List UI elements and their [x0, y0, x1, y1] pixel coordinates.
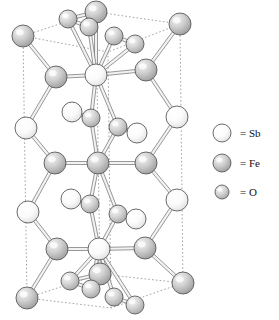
specular-highlight	[129, 300, 135, 305]
atom-c-br	[172, 272, 194, 294]
atom-rl-3	[44, 152, 66, 174]
atom-sphere-fe	[44, 152, 66, 174]
specular-highlight	[93, 267, 101, 273]
atom-rr-5	[134, 237, 156, 259]
bond	[148, 121, 175, 159]
specular-highlight	[85, 284, 91, 289]
atom-rl-2	[15, 117, 37, 139]
atom-sphere-fe	[16, 287, 38, 309]
atom-sphere-o	[82, 280, 100, 298]
specular-highlight	[112, 122, 118, 127]
bond-edge	[26, 42, 51, 74]
bond-edge	[31, 255, 55, 294]
atom-c-tr	[169, 13, 191, 35]
bond-edge	[29, 253, 53, 292]
specular-highlight	[176, 276, 184, 282]
atom-rl-4	[17, 201, 39, 223]
atom-sphere-sb	[62, 102, 82, 122]
specular-highlight	[91, 156, 99, 162]
atom-sphere-sb	[166, 189, 188, 211]
specular-highlight	[108, 292, 114, 297]
legend-swatch-fe	[213, 154, 231, 172]
crystal-structure-figure: = Sb= Fe= O	[0, 0, 279, 320]
atom-sphere-o	[105, 27, 123, 45]
bond-edge	[149, 169, 172, 197]
bond-edge	[151, 74, 175, 111]
specular-highlight	[49, 70, 57, 76]
bond-body	[147, 204, 175, 244]
atom-is-2	[127, 123, 147, 143]
atom-is-1	[62, 102, 82, 122]
atom-sphere-fe	[45, 66, 67, 88]
atom-sphere-fe	[12, 25, 34, 47]
atom-sphere-sb	[15, 117, 37, 139]
unit-cell-vertical-edge-3	[180, 24, 183, 283]
legend-label-sb: = Sb	[240, 127, 261, 139]
unit-cell-vertical-edge-1	[23, 36, 27, 298]
atom-sphere-fe	[172, 272, 194, 294]
atom-c-bl	[16, 287, 38, 309]
legend-label-o: = O	[240, 186, 257, 198]
specular-highlight	[129, 39, 135, 44]
specular-highlight	[16, 29, 24, 35]
atom-o-m4	[109, 205, 127, 223]
bond-body	[148, 121, 175, 159]
atom-ax-1	[85, 64, 107, 86]
atom-sphere-o	[126, 296, 144, 314]
bond-body	[29, 253, 55, 293]
atom-sphere-sb	[213, 124, 231, 142]
atom-sphere-sb	[166, 106, 188, 128]
specular-highlight	[89, 5, 97, 11]
atom-o-m3	[81, 195, 99, 213]
bond-body	[28, 81, 54, 123]
atom-o-t2	[80, 18, 98, 36]
atom-sphere-fe	[87, 152, 109, 174]
bond	[30, 168, 54, 208]
specular-highlight	[108, 31, 114, 36]
specular-highlight	[48, 156, 56, 162]
atom-sphere-o	[105, 288, 123, 306]
bond	[102, 69, 140, 76]
bond-edge	[99, 169, 115, 210]
bond-body	[99, 168, 118, 210]
atom-o-t3	[105, 27, 123, 45]
bond-body	[148, 74, 175, 113]
legend-item-fe: = Fe	[213, 154, 260, 172]
specular-highlight	[216, 158, 222, 163]
atom-sphere-sb	[88, 238, 110, 260]
atom-is-3	[61, 189, 81, 209]
legend-swatch-o	[215, 185, 229, 199]
atom-sphere-o	[126, 35, 144, 53]
atom-c-tl	[12, 25, 34, 47]
specular-highlight	[20, 291, 28, 297]
bond-edge	[30, 83, 54, 124]
bond	[29, 253, 55, 293]
bond-edge	[30, 168, 51, 206]
atom-sphere-o	[59, 10, 77, 28]
bond	[147, 204, 175, 244]
atom-rl-5	[46, 238, 68, 260]
legend-label-fe: = Fe	[240, 157, 260, 169]
atom-o-t1	[59, 10, 77, 28]
crystal-structure-canvas: = Sb= Fe= O	[0, 0, 279, 320]
specular-highlight	[139, 63, 147, 69]
specular-highlight	[138, 241, 146, 247]
atom-sphere-sb	[126, 209, 146, 229]
bond-edge	[147, 204, 172, 242]
specular-highlight	[85, 113, 91, 118]
atom-o-m1	[82, 109, 100, 127]
atom-sphere-sb	[127, 123, 147, 143]
bond-edge	[150, 206, 175, 244]
bond-edge	[148, 76, 172, 113]
atom-o-b2	[82, 280, 100, 298]
atom-rr-2	[166, 106, 188, 128]
atom-o-b1	[61, 272, 79, 290]
specular-highlight	[217, 188, 222, 192]
atom-sphere-sb	[85, 64, 107, 86]
specular-highlight	[173, 17, 181, 23]
atom-o-t4	[126, 35, 144, 53]
legend-item-sb: = Sb	[213, 124, 261, 142]
atom-sphere-o	[80, 18, 98, 36]
atom-sphere-o	[109, 205, 127, 223]
bond-edge	[32, 169, 53, 207]
